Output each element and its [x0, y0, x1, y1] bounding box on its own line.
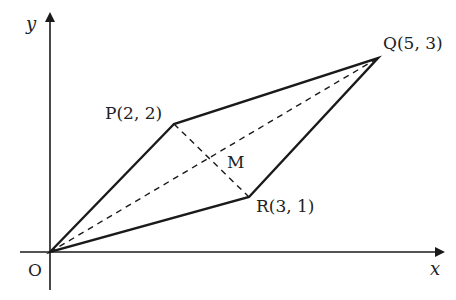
point-r-label: R(3, 1) — [256, 196, 315, 216]
x-axis-label: x — [430, 258, 440, 279]
point-q-label: Q(5, 3) — [383, 33, 443, 53]
point-m-label: M — [227, 152, 244, 172]
y-axis-label: y — [25, 13, 37, 34]
coordinate-diagram: y x O P(2, 2) Q(5, 3) R(3, 1) M — [0, 0, 456, 300]
point-p-label: P(2, 2) — [105, 103, 162, 123]
origin-label: O — [28, 260, 42, 280]
diagonal-oq — [50, 58, 378, 252]
